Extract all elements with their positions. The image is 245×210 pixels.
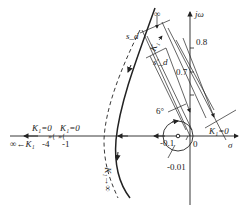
root-locus-plot: »( »( bbox=[0, 0, 245, 210]
infinity-top-label: ∞ bbox=[154, 10, 160, 19]
zero-marker bbox=[176, 134, 180, 138]
tick-minus-4: -4 bbox=[42, 140, 50, 149]
s-d-label: s_d bbox=[126, 32, 139, 41]
imag-tick-0-7: 0.7 bbox=[176, 68, 187, 77]
k1-zero-label-b: K₁=0 bbox=[60, 124, 80, 133]
real-axis-label: σ bbox=[228, 141, 232, 150]
k1-down-label: K₁→∞ bbox=[103, 167, 112, 192]
real-tick-minus-0-01: -0.01 bbox=[167, 163, 186, 172]
imag-axis-label: jω bbox=[195, 10, 204, 19]
tick-minus-1: -1 bbox=[62, 140, 70, 149]
k1-zero-label-a: K₁=0 bbox=[32, 124, 52, 133]
real-tick-minus-0-1: -0.1 bbox=[160, 139, 174, 148]
s-d-prime-label: s'_d bbox=[153, 58, 167, 67]
angle-label: 6° bbox=[156, 107, 164, 116]
k1-infinity-label: ∞←K₁ bbox=[10, 140, 35, 149]
origin-label: 0 bbox=[193, 140, 198, 149]
root-locus-diagram: »( »( jω 0.8 0.7 σ 0 -0.1 -0.01 bbox=[0, 0, 245, 210]
imag-tick-0-8: 0.8 bbox=[196, 38, 207, 47]
k1-zero-right-label: K₁=0 bbox=[209, 127, 229, 136]
